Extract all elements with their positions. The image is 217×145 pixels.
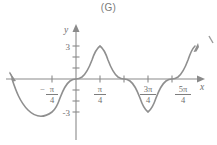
plot-area: 3 -3 y x − π 4 π 4 3π (0, 16, 217, 145)
figure-container: (G) (0, 0, 217, 145)
y-axis-title: y (63, 25, 69, 35)
graph-svg: 3 -3 y x − π 4 π 4 3π (0, 16, 217, 145)
x-tick-label-5pi-over-4: 5π 4 (175, 84, 191, 105)
x-tick-numerator-3: 5π (179, 84, 188, 94)
y-axis (73, 24, 80, 140)
y-label-neg3: -3 (63, 108, 71, 118)
x-tick-numerator-2: 3π (144, 84, 153, 94)
x-tick-label-3pi-over-4: 3π 4 (140, 84, 156, 105)
x-tick-denominator-1: 4 (98, 95, 103, 105)
x-tick-sign-0: − (40, 84, 45, 94)
x-tick-label-pi-over-4: π 4 (94, 84, 106, 105)
x-tick-denominator-0: 4 (50, 95, 55, 105)
x-tick-label-neg-pi-over-4: − π 4 (40, 84, 58, 105)
x-axis-title: x (199, 82, 205, 92)
decorative-mark (209, 36, 213, 43)
figure-title: (G) (0, 2, 217, 13)
x-tick-numerator-0: π (50, 84, 55, 94)
y-label-3: 3 (66, 42, 71, 52)
x-tick-numerator-1: π (98, 84, 103, 94)
x-tick-denominator-3: 4 (181, 95, 186, 105)
y-tick-label-bottom: -3 (63, 108, 71, 118)
curve-sine (9, 43, 199, 116)
y-tick-label-top: 3 (66, 42, 71, 52)
x-tick-denominator-2: 4 (146, 95, 151, 105)
